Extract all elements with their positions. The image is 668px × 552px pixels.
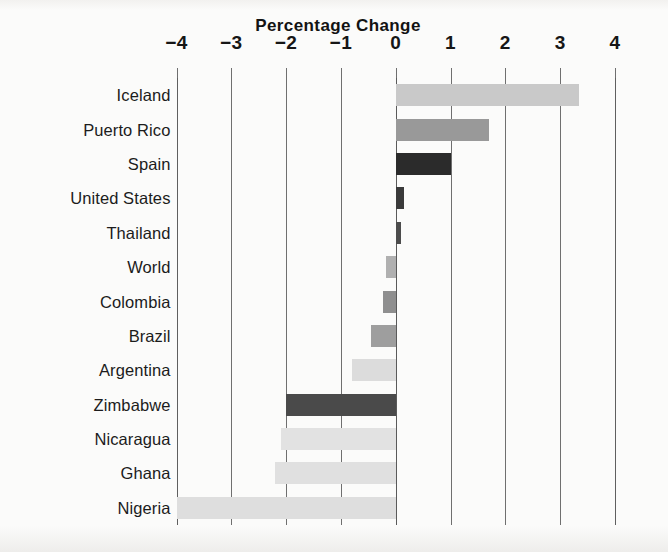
- bar: [396, 119, 489, 141]
- category-labels-group: IcelandPuerto RicoSpainUnited StatesThai…: [0, 78, 171, 525]
- bar: [396, 84, 580, 106]
- gridline-neg1: [341, 78, 342, 525]
- category-label: Spain: [0, 154, 171, 174]
- bar: [383, 291, 396, 313]
- gridline-neg4: [177, 78, 178, 525]
- bar: [396, 222, 402, 244]
- gridline-0: [396, 78, 397, 525]
- gridline-neg3: [231, 78, 232, 525]
- category-label: Argentina: [0, 360, 171, 380]
- bar: [275, 462, 396, 484]
- tick-mark-neg2: [286, 68, 287, 78]
- axis-tick-label: 3: [540, 32, 580, 54]
- plot-area: −4−3−2−101234 IcelandPuerto RicoSpainUni…: [177, 78, 616, 525]
- category-label: Puerto Rico: [0, 120, 171, 140]
- axis-tick-label: −2: [266, 32, 306, 54]
- tick-mark-2: [505, 68, 506, 78]
- gridline-4: [615, 78, 616, 525]
- category-label: Zimbabwe: [0, 395, 171, 415]
- category-label: World: [0, 257, 171, 277]
- tick-mark-neg1: [341, 68, 342, 78]
- gridline-3: [560, 78, 561, 525]
- axis-tick-label: 0: [376, 32, 416, 54]
- gridline-neg2: [286, 78, 287, 525]
- category-label: Nigeria: [0, 498, 171, 518]
- axis-tick-label: −1: [321, 32, 361, 54]
- tick-mark-0: [396, 68, 397, 78]
- gridline-1: [451, 78, 452, 525]
- tick-mark-3: [560, 68, 561, 78]
- tick-mark-1: [451, 68, 452, 78]
- axis-tick-label: −3: [211, 32, 251, 54]
- category-label: Thailand: [0, 223, 171, 243]
- bar: [396, 153, 451, 175]
- bar: [396, 187, 404, 209]
- tick-mark-neg3: [231, 68, 232, 78]
- bar: [386, 256, 395, 278]
- page-top-edge: [0, 0, 668, 10]
- axis-tick-label: 2: [485, 32, 525, 54]
- page-bottom-edge: [0, 526, 668, 552]
- bar: [286, 394, 396, 416]
- category-label: United States: [0, 188, 171, 208]
- category-label: Ghana: [0, 463, 171, 483]
- category-label: Iceland: [0, 85, 171, 105]
- axis-tick-label: −4: [157, 32, 197, 54]
- axis-tick-label: 4: [595, 32, 635, 54]
- bar: [281, 428, 396, 450]
- tick-mark-4: [615, 68, 616, 78]
- category-label: Colombia: [0, 292, 171, 312]
- category-label: Nicaragua: [0, 429, 171, 449]
- chart-page: Percentage Change −4−3−2−101234 IcelandP…: [0, 0, 668, 552]
- bar: [371, 325, 396, 347]
- axis-tick-label: 1: [431, 32, 471, 54]
- tick-mark-neg4: [177, 68, 178, 78]
- category-label: Brazil: [0, 326, 171, 346]
- bar: [352, 359, 396, 381]
- gridline-2: [505, 78, 506, 525]
- bar: [177, 497, 396, 519]
